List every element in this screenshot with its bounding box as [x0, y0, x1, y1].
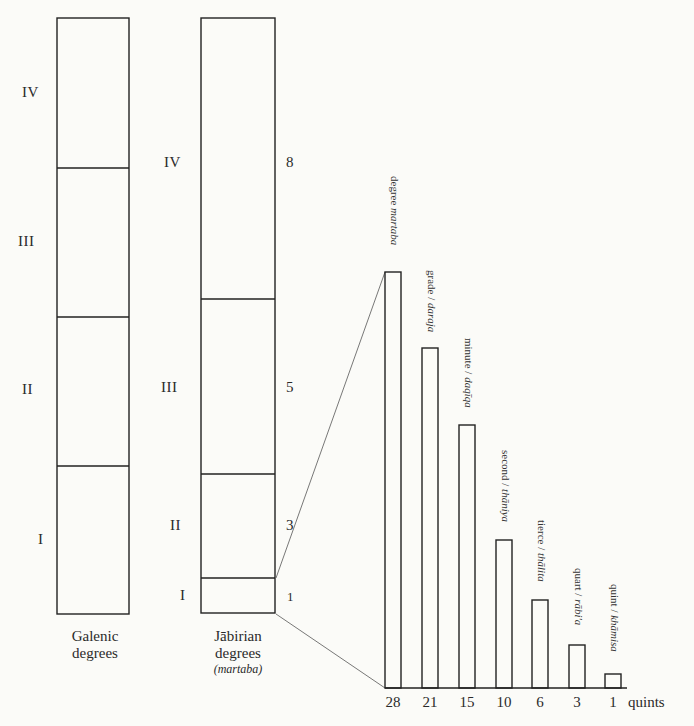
bar-label-text: minute: [463, 338, 475, 369]
jabirian-caption-term: (martaba): [193, 662, 283, 676]
bar-label-minute: minute / daqīqa: [463, 338, 474, 408]
jabirian-value-8: 8: [286, 155, 294, 170]
bar-label-text: grade: [426, 270, 438, 294]
galenic-level-I: I: [38, 532, 44, 547]
bar-label-term: rābi'a: [573, 599, 585, 625]
bar-label-term: daqīqa: [463, 377, 475, 408]
jabirian-caption-line1: Jābirian: [193, 628, 283, 645]
jabirian-level-III: III: [161, 380, 178, 395]
bar-label-second: second / thāniya: [500, 450, 511, 522]
bar-value-15: 15: [452, 694, 482, 711]
bar-label-term: martaba: [389, 208, 401, 245]
jabirian-level-II: II: [170, 518, 181, 533]
jabirian-value-1: 1: [287, 590, 294, 603]
galenic-level-II: II: [22, 382, 33, 397]
bar-label-term: thālita: [536, 553, 548, 582]
bar-label-quint: quint / khāmisa: [609, 584, 620, 652]
galenic-level-III: III: [18, 234, 35, 249]
bar-label-degree: degree martaba: [389, 176, 400, 245]
galenic-column: [57, 18, 129, 614]
galenic-caption: Galenic degrees: [50, 628, 140, 662]
galenic-caption-line2: degrees: [50, 645, 140, 662]
bar-value-3: 3: [562, 694, 592, 711]
bar-value-1: 1: [598, 694, 628, 711]
bar-label-term: thāniya: [500, 489, 512, 522]
bar-value-10: 10: [489, 694, 519, 711]
bar-label-text: second: [500, 450, 512, 481]
zoom-connector-lines: [276, 272, 385, 688]
jabirian-level-IV: IV: [164, 155, 181, 170]
jabirian-caption: Jābirian degrees (martaba): [193, 628, 283, 676]
bar-label-term: khāmisa: [609, 615, 621, 652]
diagram-lines: [0, 0, 694, 726]
bar-label-grade: grade / daraja: [426, 270, 437, 332]
galenic-level-IV: IV: [22, 85, 39, 100]
bar-value-6: 6: [525, 694, 555, 711]
bar-label-text: quart: [573, 568, 585, 591]
bar-label-text: quint: [609, 584, 621, 607]
bar-label-text: degree: [389, 176, 401, 205]
jabirian-level-I: I: [180, 588, 186, 603]
bar-label-tierce: tierce / thālita: [536, 520, 547, 582]
galenic-caption-line1: Galenic: [50, 628, 140, 645]
jabirian-value-5: 5: [286, 380, 294, 395]
jabirian-column: [201, 18, 275, 613]
bar-label-term: daraja: [426, 303, 438, 332]
jabirian-value-3: 3: [286, 518, 294, 533]
unit-label: quints: [628, 694, 665, 711]
bar-label-quart: quart / rābi'a: [573, 568, 584, 625]
bar-value-21: 21: [415, 694, 445, 711]
bar-value-28: 28: [378, 694, 408, 711]
bar-label-text: tierce: [536, 520, 548, 544]
jabirian-caption-line2: degrees: [193, 645, 283, 662]
